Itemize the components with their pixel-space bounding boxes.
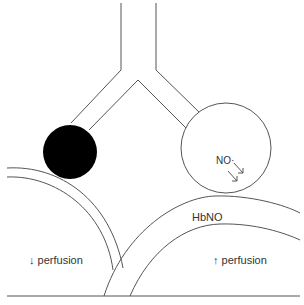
occluded-vessel bbox=[43, 125, 97, 179]
left-outer-arc bbox=[7, 168, 123, 268]
vessel-inner-wall bbox=[89, 80, 186, 130]
open-vessel bbox=[181, 103, 271, 193]
hbno-label: HbNO bbox=[192, 211, 223, 223]
bifurcating-vessel bbox=[71, 3, 199, 130]
left-perfusion-label: ↓ perfusion bbox=[29, 254, 83, 266]
no-radical-label: NO· bbox=[216, 155, 234, 166]
vessel-outer-right-wall bbox=[156, 3, 199, 112]
perfusion-diagram: NO· HbNO ↓ perfusion ↑ perfusion bbox=[0, 0, 304, 305]
right-perfusion-label: ↑ perfusion bbox=[213, 254, 267, 266]
